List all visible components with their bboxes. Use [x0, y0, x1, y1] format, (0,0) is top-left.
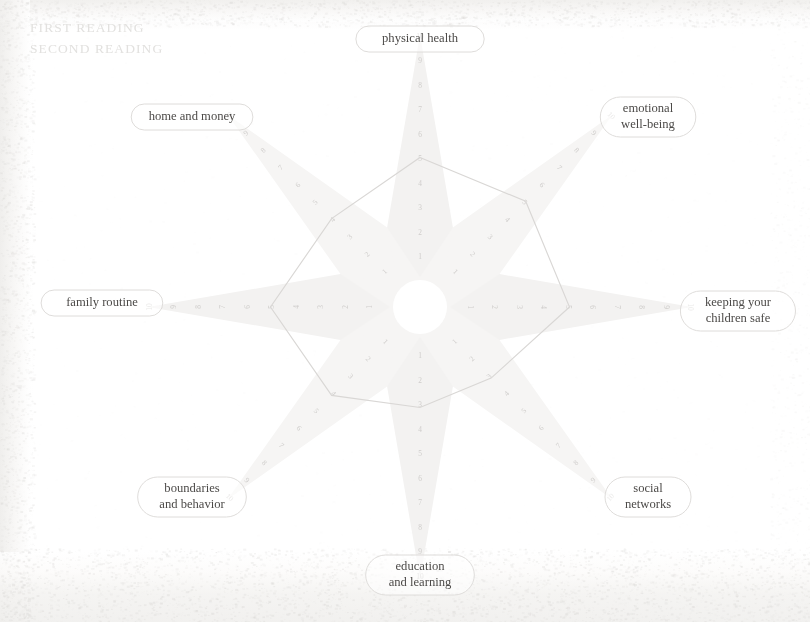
axis-tick-5: 5: [418, 449, 422, 458]
axis-tick-3: 3: [418, 203, 422, 212]
axis-label-social-networks[interactable]: socialnetworks: [605, 477, 691, 517]
axis-tick-7: 7: [613, 305, 622, 309]
axis-tick-4: 4: [418, 179, 422, 188]
axis-tick-2: 2: [341, 305, 350, 309]
axis-tick-6: 6: [418, 474, 422, 483]
axis-tick-7: 7: [218, 305, 227, 309]
axis-label-physical-health[interactable]: physical health: [356, 26, 484, 52]
pill-label-line: family routine: [66, 295, 138, 309]
pill-label-line: and learning: [389, 575, 452, 589]
axis-tick-6: 6: [588, 305, 597, 309]
axis-tick-1: 1: [418, 351, 422, 360]
axis-tick-1: 1: [466, 305, 475, 309]
pill-label-line: networks: [625, 497, 671, 511]
axis-tick-8: 8: [418, 81, 422, 90]
pill-label-line: education: [396, 559, 446, 573]
axis-tick-3: 3: [515, 305, 524, 309]
axis-tick-8: 8: [418, 523, 422, 532]
pill-label-line: social: [633, 481, 663, 495]
axis-tick-2: 2: [418, 228, 422, 237]
axis-label-keeping-your-children-safe[interactable]: keeping yourchildren safe: [680, 291, 795, 331]
pill-label-line: emotional: [623, 101, 674, 115]
axis-tick-2: 2: [490, 305, 499, 309]
pill-label-line: boundaries: [164, 481, 219, 495]
axis-tick-8: 8: [194, 305, 203, 309]
axis-tick-1: 1: [418, 252, 422, 261]
axis-label-education-and-learning[interactable]: educationand learning: [366, 555, 475, 595]
axis-label-home-and-money[interactable]: home and money: [131, 104, 253, 130]
axis-tick-6: 6: [418, 130, 422, 139]
axis-tick-4: 4: [292, 305, 301, 309]
pill-label-line: children safe: [706, 311, 771, 325]
pill-label-line: and behavior: [159, 497, 225, 511]
axis-label-family-routine[interactable]: family routine: [41, 290, 163, 316]
axis-tick-7: 7: [418, 498, 422, 507]
axis-tick-9: 9: [169, 305, 178, 309]
axis-tick-4: 4: [539, 305, 548, 309]
axis-tick-6: 6: [243, 305, 252, 309]
axis-tick-9: 9: [418, 56, 422, 65]
axis-tick-1: 1: [365, 305, 374, 309]
axis-tick-8: 8: [637, 305, 646, 309]
center-hub: [393, 280, 447, 334]
pill-label-line: well-being: [621, 117, 676, 131]
axis-tick-2: 2: [418, 376, 422, 385]
pill-label-line: home and money: [149, 109, 236, 123]
axis-tick-3: 3: [316, 305, 325, 309]
radar-star-chart: 1111111122222222333333334444444455555555…: [0, 0, 810, 622]
pill-label-line: physical health: [382, 31, 459, 45]
axis-tick-9: 9: [662, 305, 671, 309]
axis-label-emotional-well-being[interactable]: emotionalwell-being: [600, 97, 696, 137]
axis-tick-4: 4: [418, 425, 422, 434]
pill-label-line: keeping your: [705, 295, 772, 309]
axis-label-boundaries-and-behavior[interactable]: boundariesand behavior: [138, 477, 247, 517]
axis-tick-7: 7: [418, 105, 422, 114]
